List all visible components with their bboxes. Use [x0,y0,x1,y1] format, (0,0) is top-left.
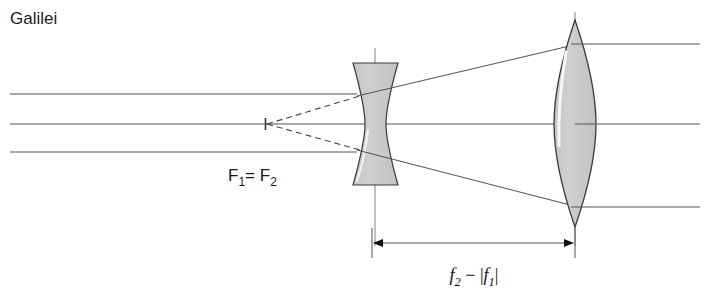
figure-canvas: Galilei [0,0,705,290]
dim-label-minus: − [461,265,480,285]
diverging-lens-group [353,48,398,246]
focal-label-f2-sub: 2 [270,175,277,189]
virtual-ray-lower [267,124,360,150]
incoming-ray-group [10,94,575,152]
optical-ray-diagram: Galilei [0,0,705,290]
converging-lens-group [554,12,596,246]
virtual-ray-group [267,96,360,150]
focal-label-f2: F [260,166,270,185]
focal-label-f1: F [228,166,238,185]
dim-label-abs-close: | [495,265,499,285]
dimension-line-group [372,228,575,258]
page-title: Galilei [10,9,57,28]
focal-point-label: F1= F2 [228,166,277,189]
virtual-ray-upper [267,96,360,124]
focal-label-equals: = [245,166,260,185]
dimension-label: f2 − |f1| [450,265,499,289]
